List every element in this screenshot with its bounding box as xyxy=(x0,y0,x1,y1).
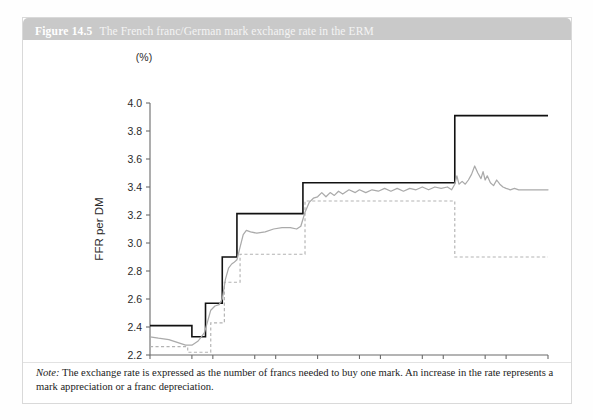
note-text: The exchange rate is expressed as the nu… xyxy=(36,367,553,392)
figure-note: Note: The exchange rate is expressed as … xyxy=(36,366,556,394)
series-dashed-grey-step xyxy=(150,201,548,352)
figure-card: Figure 14.5The French franc/German mark … xyxy=(22,17,572,404)
exchange-rate-chart: 2.22.42.62.83.03.23.43.63.84.0 197919811… xyxy=(23,40,571,362)
y-axis-title: FFR per DM xyxy=(93,197,105,260)
y-tick-label: 3.0 xyxy=(127,237,142,249)
y-axis-tick-labels: 2.22.42.62.83.03.23.43.63.84.0 xyxy=(127,97,142,361)
y-tick-label: 3.4 xyxy=(127,181,142,193)
y-tick-label: 2.4 xyxy=(127,321,142,333)
chart-series-layer xyxy=(150,116,548,353)
series-solid-black-step xyxy=(150,116,548,337)
figure-number: Figure 14.5 xyxy=(35,25,93,37)
figure-note-box: Note: The exchange rate is expressed as … xyxy=(23,362,571,402)
figure-title: The French franc/German mark exchange ra… xyxy=(100,25,374,37)
note-prefix: Note: xyxy=(36,367,60,378)
y-tick-label: 3.2 xyxy=(127,209,142,221)
note-divider xyxy=(23,362,571,363)
y-tick-label: 3.6 xyxy=(127,153,142,165)
chart-panel: 2.22.42.62.83.03.23.43.63.84.0 197919811… xyxy=(23,40,571,362)
y-tick-label: 3.8 xyxy=(127,125,142,137)
figure-container: Figure 14.5The French franc/German mark … xyxy=(0,0,593,420)
y-tick-label: 2.8 xyxy=(127,265,142,277)
y-tick-label: 2.2 xyxy=(127,349,142,361)
y-axis-unit-label: (%) xyxy=(136,51,152,63)
y-tick-label: 4.0 xyxy=(127,97,142,109)
series-solid-grey xyxy=(150,166,548,345)
figure-title-bar: Figure 14.5The French franc/German mark … xyxy=(23,18,571,40)
y-tick-label: 2.6 xyxy=(127,293,142,305)
